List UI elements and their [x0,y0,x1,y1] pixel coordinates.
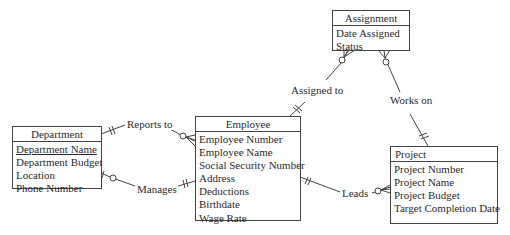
assigned-to-connector [290,50,355,116]
relationship-label-manages: Manages [136,183,178,195]
attribute: Status [336,40,406,53]
attribute: Phone Number [16,182,98,195]
attribute: Target Completion Date [394,202,494,215]
attribute: Employee Name [199,146,297,159]
attribute: Social Security Number [199,159,297,172]
entity-attributes: Employee Number Employee Name Social Sec… [196,132,300,225]
entity-department: Department Department Name Department Bu… [12,126,102,189]
relationship-label-works-on: Works on [389,94,433,106]
entity-title: Project [391,147,497,162]
attribute: Deductions [199,185,297,198]
entity-employee: Employee Employee Number Employee Name S… [195,116,301,221]
attribute: Employee Number [199,133,297,146]
attribute: Date Assigned [336,27,406,40]
entity-title: Assignment [333,11,409,26]
entity-title: Department [13,127,101,142]
attribute: Location [16,169,98,182]
entity-assignment: Assignment Date Assigned Status [332,10,410,51]
attribute: Wage Rate [199,212,297,225]
entity-attributes: Project Number Project Name Project Budg… [391,162,497,215]
attribute: Project Name [394,176,494,189]
relationship-label-assigned-to: Assigned to [290,84,344,96]
relationship-label-leads: Leads [341,187,369,199]
entity-attributes: Date Assigned Status [333,26,409,53]
entity-project: Project Project Number Project Name Proj… [390,146,498,224]
attribute: Department Budget [16,156,98,169]
attribute: Project Number [394,163,494,176]
entity-title: Employee [196,117,300,132]
entity-attributes: Department Name Department Budget Locati… [13,142,101,195]
attribute: Address [199,172,297,185]
relationship-label-reports-to: Reports to [126,118,174,130]
attribute: Birthdate [199,198,297,211]
attribute: Project Budget [394,189,494,202]
attribute-primary-key: Department Name [16,143,98,156]
